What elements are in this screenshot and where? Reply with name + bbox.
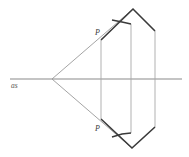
diagram-canvas: as P P bbox=[0, 0, 189, 157]
axis-label: as bbox=[11, 81, 18, 90]
point-label-lower: P bbox=[94, 124, 100, 133]
upper-ray-line bbox=[52, 9, 133, 79]
point-label-upper: P bbox=[94, 28, 100, 37]
upper-surface-outline bbox=[101, 9, 155, 40]
ray-diagram-svg: as P P bbox=[0, 0, 189, 157]
